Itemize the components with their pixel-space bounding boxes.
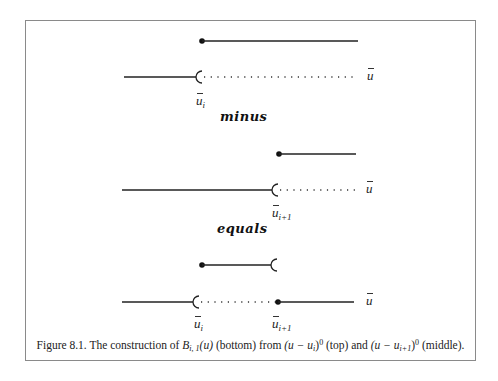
figure-caption: Figure 8.1. The construction of Bi, 1(u)… bbox=[25, 338, 476, 353]
open-bracket-icon bbox=[271, 259, 277, 271]
bottom-function bbox=[199, 259, 277, 271]
bottom-axis bbox=[122, 296, 354, 308]
break-label-ui1-middle: ui+1 bbox=[272, 206, 292, 222]
operator-minus: minus bbox=[220, 109, 267, 124]
break-label-ui-bottom: ui bbox=[194, 317, 203, 333]
operator-equals: equals bbox=[217, 221, 268, 236]
axis-label-u-top: u bbox=[367, 69, 374, 82]
open-bracket-icon bbox=[193, 296, 199, 308]
middle-axis bbox=[122, 184, 358, 196]
figure-diagram bbox=[0, 0, 498, 381]
axis-label-u-bottom: u bbox=[366, 294, 373, 307]
axis-label-u-middle: u bbox=[366, 182, 373, 195]
top-function bbox=[199, 38, 358, 44]
middle-function bbox=[276, 151, 356, 157]
break-label-ui-top: ui bbox=[196, 94, 205, 110]
open-bracket-icon bbox=[272, 184, 278, 196]
open-bracket-icon bbox=[196, 71, 202, 83]
top-axis bbox=[124, 71, 358, 83]
break-label-ui1-bottom: ui+1 bbox=[272, 317, 292, 333]
